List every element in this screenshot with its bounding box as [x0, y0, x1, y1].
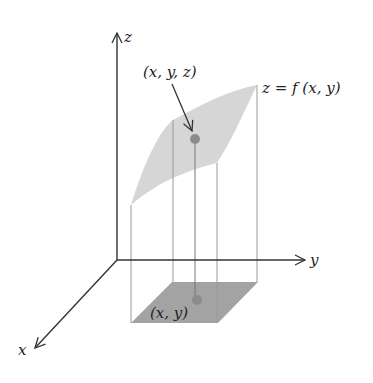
- x-axis: [35, 260, 117, 348]
- diagram-canvas: z y x (x, y, z) z = f (x, y) (x, y): [0, 0, 373, 383]
- domain-point-dot: [192, 295, 202, 305]
- function-label: z = f (x, y): [261, 79, 341, 97]
- surface-patch: [131, 85, 257, 205]
- surface-point-label: (x, y, z): [143, 63, 197, 81]
- surface-point-dot: [190, 134, 200, 144]
- z-axis-label: z: [123, 28, 132, 46]
- x-axis-label: x: [18, 341, 27, 359]
- domain-point-label: (x, y): [150, 304, 188, 322]
- y-axis-label: y: [309, 251, 319, 269]
